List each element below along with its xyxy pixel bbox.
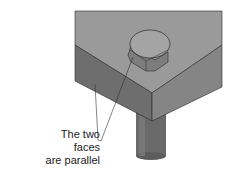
callout-line-2: are parallel [38,154,100,167]
callout-label: The two faces are parallel [38,128,100,167]
callout-line-1: The two faces [38,128,100,154]
bolt-plate-diagram [0,0,230,172]
